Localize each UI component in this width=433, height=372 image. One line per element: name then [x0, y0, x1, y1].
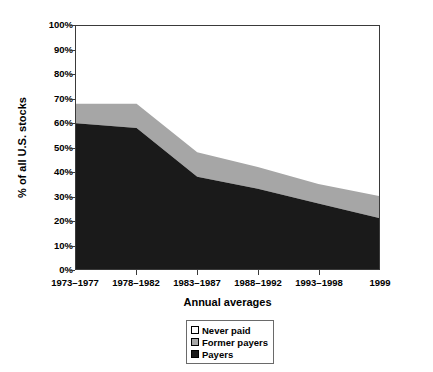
- x-axis-tick-label: 1993–1998: [295, 277, 343, 289]
- legend-item-label: Former payers: [202, 337, 268, 348]
- y-axis-tick-label: 100%: [33, 20, 73, 30]
- plot-area: [75, 25, 380, 270]
- y-axis-tick-label: 90%: [33, 45, 73, 55]
- x-axis-tick-mark: [197, 270, 198, 275]
- legend-item: Former payers: [191, 336, 268, 348]
- x-axis-tick-label: 1978–1982: [112, 277, 160, 289]
- x-axis-tick-mark: [136, 270, 137, 275]
- x-axis-tick-label: 1988–1992: [234, 277, 282, 289]
- y-axis-title: % of all U.S. stocks: [14, 25, 30, 270]
- y-axis-tick-label: 50%: [33, 143, 73, 153]
- y-axis-tick-label: 20%: [33, 216, 73, 226]
- y-axis-tick-label: 30%: [33, 192, 73, 202]
- x-axis-title: Annual averages: [75, 296, 380, 309]
- legend-item-label: Payers: [202, 349, 233, 360]
- stacked-area-chart: % of all U.S. stocks 0%10%20%30%40%50%60…: [0, 0, 433, 372]
- chart-legend: Never paidFormer payersPayers: [186, 320, 274, 364]
- plot-svg: [76, 26, 379, 269]
- legend-swatch-icon: [191, 326, 199, 334]
- legend-swatch-icon: [191, 338, 199, 346]
- y-axis-tick-mark: [70, 270, 75, 271]
- y-axis-tick-label: 40%: [33, 167, 73, 177]
- x-axis-tick-labels: 1973–19771978–19821983–19871988–19921993…: [0, 277, 433, 291]
- x-axis-tick-mark: [258, 270, 259, 275]
- legend-item-label: Never paid: [202, 325, 251, 336]
- legend-item: Payers: [191, 348, 268, 360]
- legend-swatch-icon: [191, 350, 199, 358]
- y-axis-tick-label: 10%: [33, 241, 73, 251]
- y-axis-tick-label: 60%: [33, 118, 73, 128]
- x-axis-tick-mark: [319, 270, 320, 275]
- legend-item: Never paid: [191, 324, 268, 336]
- y-axis-tick-label: 70%: [33, 94, 73, 104]
- x-axis-tick-label: 1983–1987: [173, 277, 221, 289]
- x-axis-tick-label: 1999: [369, 277, 390, 289]
- x-axis-tick-label: 1973–1977: [51, 277, 99, 289]
- y-axis-tick-label: 0%: [33, 265, 73, 275]
- y-axis-tick-label: 80%: [33, 69, 73, 79]
- y-axis-tick-labels: 0%10%20%30%40%50%60%70%80%90%100%: [33, 0, 73, 372]
